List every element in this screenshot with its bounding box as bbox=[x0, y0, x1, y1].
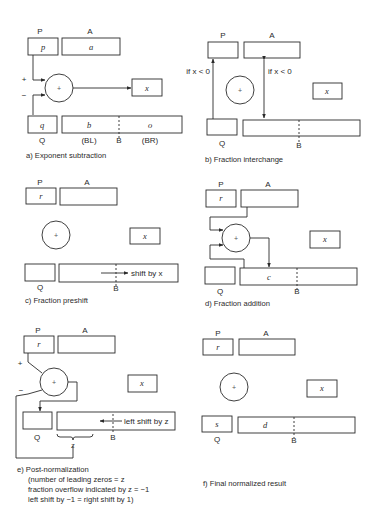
right-condition-label: if x < 0 bbox=[268, 67, 292, 76]
register-b bbox=[240, 268, 357, 285]
register-br-label: (BR) bbox=[142, 136, 159, 145]
register-q bbox=[205, 267, 235, 284]
register-x-label: x bbox=[139, 378, 144, 388]
register-p-label: P bbox=[218, 180, 223, 189]
register-a bbox=[244, 42, 300, 58]
register-b bbox=[62, 116, 182, 133]
arrow-adder-to-b bbox=[250, 238, 269, 267]
panel-e-note-line-2: fraction overflow indicated by z = −1 bbox=[28, 485, 149, 494]
register-p-label: P bbox=[37, 27, 42, 36]
plus-sign: + bbox=[22, 75, 27, 84]
register-q-label: Q bbox=[217, 287, 223, 296]
register-q-label: Q bbox=[219, 139, 225, 148]
register-a-label: A bbox=[263, 329, 269, 338]
panel-e-note-line-3: left shift by −1 = right shift by 1) bbox=[28, 495, 134, 504]
register-a-label: A bbox=[87, 27, 93, 36]
brace-label: z bbox=[70, 440, 75, 450]
line-p-to-adder bbox=[28, 353, 42, 373]
register-bl-value: b bbox=[87, 120, 91, 130]
register-a bbox=[241, 190, 298, 207]
panel-a-exponent-subtraction: P A p a + + − x q b o Q (BL) B (BR) a) E… bbox=[22, 27, 182, 160]
register-q-label: Q bbox=[39, 136, 45, 145]
register-p bbox=[208, 42, 238, 58]
register-x-label: x bbox=[324, 86, 329, 96]
adder-plus-icon: + bbox=[234, 235, 238, 242]
register-b bbox=[238, 417, 355, 433]
register-a-label: A bbox=[84, 178, 90, 187]
register-b-label: B bbox=[116, 136, 121, 145]
register-x-label: x bbox=[142, 231, 147, 241]
panel-d-caption: d) Fraction addition bbox=[205, 299, 270, 308]
register-p-label: P bbox=[35, 326, 40, 335]
register-b-value: c bbox=[267, 272, 271, 282]
register-a-label: A bbox=[82, 326, 88, 335]
register-a-label: A bbox=[265, 180, 271, 189]
plus-sign: + bbox=[18, 359, 23, 368]
arrow-p-to-adder bbox=[33, 55, 45, 80]
register-q-label: Q bbox=[37, 283, 43, 292]
register-q-label: Q bbox=[214, 435, 220, 444]
register-q bbox=[25, 264, 55, 281]
panel-f-final-normalized-result: P A r + x s d Q B f) Final normalized re… bbox=[202, 329, 355, 488]
adder-plus-icon: + bbox=[232, 384, 236, 391]
register-br-value: o bbox=[148, 120, 152, 130]
panel-c-caption: c) Fraction preshift bbox=[25, 296, 89, 305]
left-condition-label: if x < 0 bbox=[186, 67, 210, 76]
adder-plus-icon: + bbox=[238, 87, 242, 94]
register-q bbox=[207, 119, 237, 135]
shift-label: shift by x bbox=[131, 269, 163, 278]
register-x-label: x bbox=[144, 83, 149, 93]
register-bl-label: (BL) bbox=[81, 136, 96, 145]
register-q bbox=[23, 412, 52, 429]
register-b-label: B bbox=[113, 284, 118, 293]
register-a bbox=[58, 336, 115, 353]
panel-b-caption: b) Fraction interchange bbox=[205, 155, 283, 164]
minus-sign: − bbox=[22, 91, 27, 100]
register-a-label: A bbox=[269, 31, 275, 40]
panel-b-fraction-interchange: P A + if x < 0 if x < 0 x Q B b) Fractio… bbox=[186, 31, 360, 164]
adder-plus-icon: + bbox=[54, 232, 58, 239]
adder-plus-icon: + bbox=[52, 379, 56, 386]
floating-point-addition-diagram: P A p a + + − x q b o Q (BL) B (BR) a) E… bbox=[0, 0, 376, 527]
register-b bbox=[243, 120, 360, 136]
panel-e-post-normalization: P A r + + − x left shift by z Q B z e) P… bbox=[16, 326, 175, 504]
register-b-label: B bbox=[294, 287, 299, 296]
panel-a-caption: a) Exponent subtraction bbox=[26, 151, 106, 160]
panel-e-note-line-1: (number of leading zeros = z bbox=[28, 475, 125, 484]
register-a bbox=[60, 188, 117, 205]
panel-d-fraction-addition: P A r + x c Q B d) Fraction addition bbox=[205, 180, 357, 308]
register-b-label: B bbox=[110, 433, 115, 442]
register-a-value: a bbox=[89, 42, 93, 52]
arrow-q-to-adder bbox=[33, 95, 45, 115]
register-b-label: B bbox=[291, 436, 296, 445]
register-p-label: P bbox=[220, 31, 225, 40]
panel-c-fraction-preshift: P A r + x shift by x Q B c) Fraction pre… bbox=[25, 178, 178, 305]
register-a bbox=[239, 339, 295, 355]
register-p-label: P bbox=[215, 329, 220, 338]
register-p-label: P bbox=[37, 178, 42, 187]
leading-zeros-brace bbox=[57, 434, 93, 440]
adder-plus-icon: + bbox=[57, 85, 61, 92]
register-p-value: p bbox=[40, 42, 45, 52]
panel-e-caption: e) Post-normalization bbox=[17, 465, 89, 474]
shift-label: left shift by z bbox=[124, 417, 168, 426]
panel-f-caption: f) Final normalized result bbox=[203, 479, 287, 488]
register-b-label: B bbox=[296, 141, 301, 150]
register-x-label: x bbox=[322, 234, 327, 244]
register-q-label: Q bbox=[34, 433, 40, 442]
minus-sign: − bbox=[19, 386, 24, 395]
register-x-label: x bbox=[319, 383, 324, 393]
